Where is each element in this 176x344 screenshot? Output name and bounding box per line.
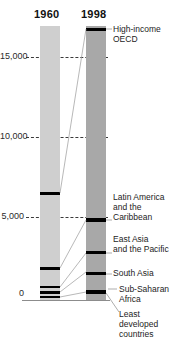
- column-header-1998: 1998: [81, 8, 106, 20]
- chart-canvas: 1960 1998 15,000 10,000 5,000 0: [0, 0, 176, 344]
- axis-tick-15000: 15,000: [0, 51, 24, 61]
- series-label-high-income-oecd: High-income OECD: [113, 24, 161, 44]
- band-1960-south-asia: [40, 286, 60, 288]
- axis-tick-5000: 5,000: [0, 211, 24, 221]
- bar-column-1960[interactable]: [40, 26, 60, 300]
- connector-south-asia: [60, 253, 86, 287]
- connector-latin-america: [60, 29, 86, 193]
- band-1960-latin-america: [40, 192, 60, 195]
- column-header-1960: 1960: [34, 8, 59, 20]
- band-1998-east-asia: [86, 251, 106, 254]
- band-1960-least-developed: [40, 296, 60, 298]
- band-1960-sub-saharan: [40, 291, 60, 294]
- series-label-east-asia: East Asia and the Pacific: [113, 234, 169, 254]
- connector-east-asia: [60, 220, 86, 268]
- leader-least-developed: [106, 293, 119, 312]
- series-label-latin-america: Latin America and the Caribbean: [113, 192, 165, 222]
- axis-baseline: [22, 300, 110, 301]
- series-label-south-asia: South Asia: [113, 268, 154, 278]
- band-1998-south-asia: [86, 272, 106, 275]
- band-1998-least-developed: [86, 290, 106, 294]
- band-1960-east-asia: [40, 267, 60, 270]
- axis-tick-0: 0: [0, 288, 24, 298]
- band-1998-high-income-oecd: [86, 28, 106, 31]
- connector-sub-saharan: [60, 272, 86, 292]
- connector-least-developed: [60, 292, 86, 297]
- bar-column-1998[interactable]: [86, 26, 106, 300]
- axis-tick-10000: 10,000: [0, 131, 24, 141]
- series-label-least-developed: Least developed countries: [119, 309, 158, 339]
- series-label-sub-saharan: Sub-Saharan Africa: [119, 284, 169, 304]
- band-1998-latin-america: [86, 218, 106, 222]
